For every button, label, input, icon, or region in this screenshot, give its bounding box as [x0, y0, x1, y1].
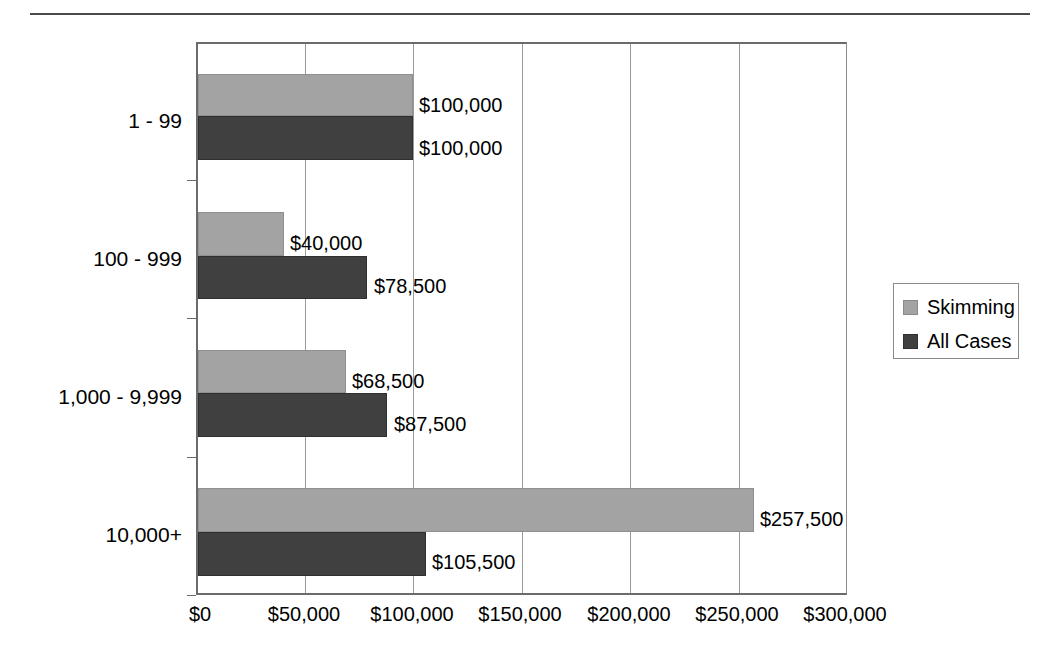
header-divider — [30, 13, 1030, 15]
legend-label: Skimming — [927, 297, 1015, 317]
bar-skimming-1-99 — [198, 74, 413, 116]
data-label-skimming-100-999: $40,000 — [290, 233, 362, 253]
y-axis-tick — [187, 457, 196, 458]
legend-item-skimming: Skimming — [903, 297, 1015, 317]
legend: Skimming All Cases — [893, 283, 1019, 359]
bar-allcases-1000-9999 — [198, 393, 387, 437]
x-axis-tick-label: $200,000 — [587, 604, 670, 624]
data-label-skimming-10000plus: $257,500 — [760, 509, 843, 529]
x-axis-tick-label: $150,000 — [478, 604, 561, 624]
legend-item-allcases: All Cases — [903, 331, 1011, 351]
x-axis-tick-label: $50,000 — [268, 604, 340, 624]
bar-skimming-10000plus — [198, 488, 754, 532]
y-axis-category-label: 10,000+ — [106, 524, 183, 545]
x-axis-tick-label: $100,000 — [370, 604, 453, 624]
data-label-skimming-1000-9999: $68,500 — [352, 371, 424, 391]
legend-swatch-icon — [903, 334, 918, 349]
x-axis-origin-tick — [187, 595, 196, 596]
bar-allcases-1-99 — [198, 116, 413, 160]
bar-allcases-100-999 — [198, 256, 367, 299]
bar-allcases-10000plus — [198, 532, 426, 576]
x-axis-tick-label: $0 — [189, 604, 211, 624]
legend-label: All Cases — [927, 331, 1011, 351]
data-label-allcases-100-999: $78,500 — [374, 276, 446, 296]
data-label-skimming-1-99: $100,000 — [419, 95, 502, 115]
data-label-allcases-10000plus: $105,500 — [432, 552, 515, 572]
legend-swatch-icon — [903, 300, 918, 315]
x-axis-tick-label: $300,000 — [803, 604, 886, 624]
bar-skimming-100-999 — [198, 212, 284, 256]
y-axis-category-label: 1 - 99 — [128, 110, 182, 131]
bar-skimming-1000-9999 — [198, 350, 346, 393]
y-axis-category-label: 100 - 999 — [93, 248, 182, 269]
plot-area — [196, 42, 847, 595]
data-label-allcases-1000-9999: $87,500 — [394, 414, 466, 434]
chart-figure: 1 - 99 100 - 999 1,000 - 9,999 10,000+ $… — [0, 0, 1057, 668]
data-label-allcases-1-99: $100,000 — [419, 138, 502, 158]
x-axis-tick-label: $250,000 — [695, 604, 778, 624]
y-axis-tick — [187, 318, 196, 319]
y-axis-tick — [187, 180, 196, 181]
y-axis-category-label: 1,000 - 9,999 — [58, 386, 182, 407]
